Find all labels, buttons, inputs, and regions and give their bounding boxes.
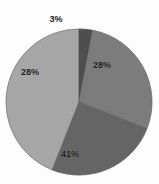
pie-label-28-percent-right: 28%: [78, 60, 126, 70]
pie-chart-figure: 3% 28% 41% 28%: [0, 0, 159, 184]
pie-label-3-percent: 3%: [0, 14, 112, 24]
pie-label-41-percent: 41%: [46, 149, 94, 159]
pie-label-28-percent-left: 28%: [6, 67, 54, 77]
